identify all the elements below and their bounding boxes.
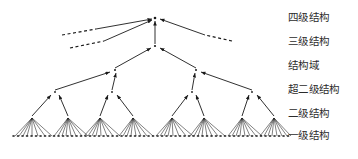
level-label-column: 四级结构 三级结构 结构域 超二级结构 二级结构 一级结构 [288,0,358,159]
edges-domain-to-tertiary [115,48,196,68]
protein-structure-hierarchy-figure: 四级结构 三级结构 结构域 超二级结构 二级结构 一级结构 [0,0,358,159]
level-label-primary: 一级结构 [288,130,358,141]
fan-5 [156,118,193,136]
external-subunit-left-upper [62,19,152,35]
node-supersecondary-3 [191,91,193,93]
node-supersecondary-4 [251,91,253,93]
edges-supersecondary-to-domain [55,72,252,90]
fan-group-secondary-to-primary [15,118,291,136]
fan-4 [119,118,153,136]
external-subunit-right [160,19,232,41]
fan-1 [15,118,52,136]
level-label-quaternary: 四级结构 [288,12,358,23]
node-supersecondary-2 [111,91,113,93]
level-label-domain: 结构域 [288,60,358,71]
node-quaternary [154,17,157,20]
fan-6 [190,118,225,136]
level-label-tertiary: 三级结构 [288,36,358,47]
fan-8 [260,118,291,136]
level-label-super-secondary: 超二级结构 [288,84,358,95]
node-domain-2 [195,69,197,71]
edges-secondary-to-supersecondary [32,95,274,116]
level-label-secondary: 二级结构 [288,108,358,119]
fan-3 [84,118,120,136]
node-markers [54,17,253,93]
fan-7 [228,118,262,136]
node-tertiary [154,45,156,47]
external-subunit-edges [62,19,232,48]
fan-2 [54,118,88,136]
external-subunit-left-lower [70,20,152,48]
node-supersecondary-1 [54,91,56,93]
node-domain-1 [114,69,116,71]
